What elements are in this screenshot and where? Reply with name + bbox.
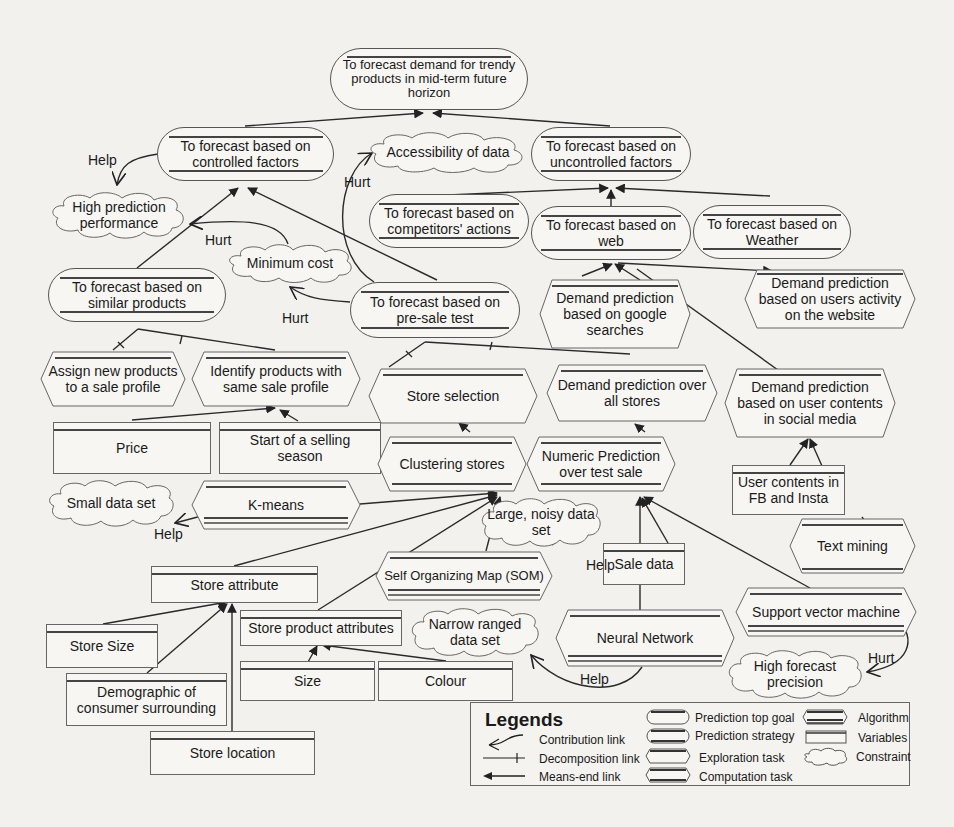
algorithm-k-means[interactable]: K-means (192, 479, 360, 531)
node-label: Demographic of consumer surrounding (67, 684, 226, 716)
strategy-uncontrolled-factors[interactable]: To forecast based on uncontrolled factor… (531, 127, 691, 181)
task-store-selection[interactable]: Store selection (369, 367, 537, 425)
node-label: Minimum cost (241, 255, 339, 271)
algorithm-svm[interactable]: Support vector machine (736, 586, 916, 638)
node-label: Assign new products to a sale profile (41, 363, 185, 395)
variable-size[interactable]: Size (240, 661, 375, 701)
variable-store-attribute[interactable]: Store attribute (151, 566, 318, 603)
algorithm-text-mining[interactable]: Text mining (790, 517, 915, 575)
link-label-help: Help (88, 152, 117, 168)
node-label: Start of a selling season (220, 432, 380, 464)
strategy-competitors-actions[interactable]: To forecast based on competitors' action… (369, 194, 529, 248)
node-label: Store location (184, 745, 282, 761)
node-label: High prediction performance (50, 199, 188, 231)
node-label: To forecast based on Weather (694, 216, 850, 248)
strategy-shape-icon (646, 728, 690, 744)
legend-title: Legends (485, 709, 563, 731)
task-clustering-stores[interactable]: Clustering stores (378, 435, 526, 493)
node-label: Numeric Prediction over test sale (527, 448, 675, 480)
variable-price[interactable]: Price (53, 422, 211, 474)
strategy-pre-sale-test[interactable]: To forecast based on pre-sale test (350, 282, 520, 338)
node-label: Support vector machine (746, 604, 906, 620)
strategy-similar-products[interactable]: To forecast based on similar products (48, 268, 226, 322)
variable-store-location[interactable]: Store location (150, 731, 315, 775)
node-label: Demand prediction based on user contents… (725, 379, 895, 427)
legend: Legends Contribution link Decomposition … (470, 702, 910, 786)
variable-store-product-attributes[interactable]: Store product attributes (240, 610, 402, 646)
legend-variables: Variables (858, 731, 907, 745)
node-label: Demand prediction based on users activit… (745, 275, 915, 323)
legend-exploration-task: Exploration task (699, 751, 784, 765)
node-label: To forecast based on uncontrolled factor… (532, 138, 690, 170)
contribution-link-icon (485, 733, 525, 751)
task-numeric-prediction[interactable]: Numeric Prediction over test sale (527, 435, 675, 493)
node-label: Clustering stores (393, 456, 510, 472)
node-label: To forecast based on web (532, 217, 690, 249)
algorithm-neural-network[interactable]: Neural Network (556, 608, 734, 668)
node-label: K-means (242, 497, 310, 513)
task-assign-products[interactable]: Assign new products to a sale profile (41, 350, 185, 408)
node-label: Store Size (64, 638, 141, 654)
node-label: Accessibility of data (381, 144, 516, 160)
link-label-hurt: Hurt (344, 174, 370, 190)
link-label-hurt: Hurt (868, 650, 894, 666)
strategy-controlled-factors[interactable]: To forecast based on controlled factors (157, 127, 334, 181)
node-label: Demand prediction based on google search… (540, 290, 690, 338)
constraint-narrow-ranged[interactable]: Narrow ranged data set (410, 608, 540, 656)
node-label: Self Organizing Map (SOM) (378, 568, 550, 584)
algorithm-shape-icon (803, 709, 847, 725)
node-label: Identify products with same sale profile (192, 363, 360, 395)
variable-colour[interactable]: Colour (378, 661, 513, 701)
node-label: Size (288, 673, 327, 689)
task-users-activity[interactable]: Demand prediction based on users activit… (745, 268, 915, 330)
constraint-accessibility[interactable]: Accessibility of data (368, 132, 528, 172)
strategy-web[interactable]: To forecast based on web (531, 206, 691, 260)
legend-decomposition-link: Decomposition link (539, 752, 640, 766)
node-label: To forecast based on pre-sale test (351, 294, 519, 326)
algorithm-som[interactable]: Self Organizing Map (SOM) (376, 550, 552, 602)
node-label: Sale data (608, 556, 679, 572)
node-label: Small data set (61, 495, 162, 511)
constraint-cloud-icon (803, 748, 849, 766)
legend-prediction-top-goal: Prediction top goal (695, 711, 794, 725)
computation-task-icon (646, 767, 690, 783)
constraint-high-prediction[interactable]: High prediction performance (50, 192, 188, 238)
node-label: Store attribute (185, 577, 285, 593)
node-label: Colour (419, 673, 472, 689)
top-goal-node[interactable]: To forecast demand for trendy products i… (330, 48, 528, 110)
variable-store-size[interactable]: Store Size (46, 624, 158, 668)
node-label: To forecast based on competitors' action… (370, 205, 528, 237)
task-all-stores[interactable]: Demand prediction over all stores (547, 363, 717, 423)
constraint-large-noisy[interactable]: Large, noisy data set (480, 498, 602, 546)
link-label-hurt: Hurt (282, 310, 308, 326)
task-social-media[interactable]: Demand prediction based on user contents… (725, 367, 895, 439)
node-label: Neural Network (591, 630, 699, 646)
node-label: To forecast based on controlled factors (158, 138, 333, 170)
node-label: Store selection (401, 388, 506, 404)
legend-algorithm: Algorithm (858, 711, 909, 725)
node-label: Text mining (811, 538, 894, 554)
link-label-help: Help (580, 671, 609, 687)
legend-contribution-link: Contribution link (539, 733, 625, 747)
legend-means-end-link: Means-end link (539, 770, 620, 784)
node-label: To forecast based on similar products (49, 279, 225, 311)
constraint-small-data-set[interactable]: Small data set (47, 480, 175, 526)
variable-fb-insta[interactable]: User contents in FB and Insta (732, 465, 845, 515)
exploration-task-icon (646, 748, 690, 764)
legend-prediction-strategy: Prediction strategy (695, 729, 794, 743)
node-label: High forecast precision (727, 658, 863, 690)
strategy-weather[interactable]: To forecast based on Weather (693, 205, 851, 259)
variable-selling-season[interactable]: Start of a selling season (219, 422, 381, 474)
constraint-minimum-cost[interactable]: Minimum cost (227, 244, 353, 282)
variable-demographic[interactable]: Demographic of consumer surrounding (66, 673, 227, 726)
task-google-searches[interactable]: Demand prediction based on google search… (540, 278, 690, 350)
task-identify-products[interactable]: Identify products with same sale profile (192, 350, 360, 408)
node-label: To forecast demand for trendy products i… (331, 58, 527, 100)
variable-sale-data[interactable]: Sale data (603, 543, 685, 585)
legend-constraint: Constraint (856, 750, 911, 764)
node-label: Demand prediction over all stores (547, 377, 717, 409)
link-label-help: Help (154, 526, 183, 542)
node-label: Narrow ranged data set (410, 616, 540, 648)
variable-shape-icon (805, 730, 847, 744)
constraint-high-precision[interactable]: High forecast precision (727, 650, 863, 698)
